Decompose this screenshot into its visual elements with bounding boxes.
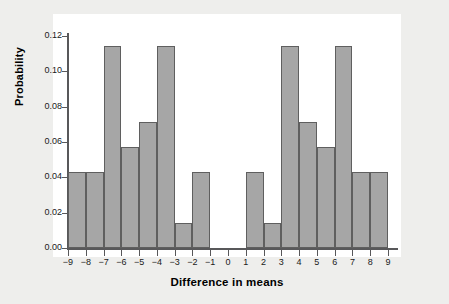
plot-area (68, 36, 388, 248)
x-tick-mark (175, 250, 176, 256)
x-tick-mark (246, 250, 247, 256)
y-tick-label: 0.02 (32, 208, 62, 217)
x-tick-mark (192, 250, 193, 256)
histogram-bar (68, 172, 86, 248)
y-tick-mark (62, 107, 68, 108)
y-tick-mark (62, 213, 68, 214)
y-tick-mark (62, 248, 68, 249)
x-tick-mark (210, 250, 211, 256)
histogram-bar (317, 147, 335, 248)
histogram-bar (281, 46, 299, 248)
histogram-bar (121, 147, 139, 248)
y-tick-mark (62, 71, 68, 72)
histogram-bar (335, 46, 353, 248)
y-tick-label: 0.12 (32, 31, 62, 40)
y-tick-label: 0.10 (32, 66, 62, 75)
y-tick-label: 0.00 (32, 243, 62, 252)
histogram-bar (246, 172, 264, 248)
y-axis-ticks: 0.000.020.040.060.080.100.12 (0, 0, 62, 304)
histogram-bar (352, 172, 370, 248)
y-tick-label: 0.08 (32, 102, 62, 111)
x-tick-mark (281, 250, 282, 256)
histogram-figure: 0.000.020.040.060.080.100.12 Probability… (0, 0, 449, 304)
histogram-bar (175, 223, 193, 248)
x-tick-label: 9 (377, 258, 399, 267)
x-tick-mark (228, 250, 229, 256)
y-tick-mark (62, 36, 68, 37)
x-tick-mark (317, 250, 318, 256)
y-tick-label: 0.06 (32, 137, 62, 146)
y-tick-mark (62, 177, 68, 178)
x-tick-mark (68, 250, 69, 256)
x-tick-mark (139, 250, 140, 256)
x-tick-mark (299, 250, 300, 256)
x-tick-mark (370, 250, 371, 256)
histogram-bar (264, 223, 282, 248)
histogram-bar (192, 172, 210, 248)
histogram-bar (157, 46, 175, 248)
histogram-bar (86, 172, 104, 248)
x-tick-mark (388, 250, 389, 256)
y-axis-title: Probability (13, 47, 25, 106)
histogram-bar (139, 122, 157, 248)
x-tick-mark (86, 250, 87, 256)
x-tick-mark (104, 250, 105, 256)
x-tick-mark (335, 250, 336, 256)
x-tick-mark (264, 250, 265, 256)
x-tick-mark (157, 250, 158, 256)
x-axis-line (67, 248, 398, 250)
y-tick-label: 0.04 (32, 172, 62, 181)
y-tick-mark (62, 142, 68, 143)
histogram-bar (104, 46, 122, 248)
histogram-bar (370, 172, 388, 248)
histogram-bar (299, 122, 317, 248)
x-axis-title: Difference in means (53, 276, 401, 288)
x-tick-mark (352, 250, 353, 256)
x-tick-mark (121, 250, 122, 256)
bar-series (68, 36, 388, 248)
